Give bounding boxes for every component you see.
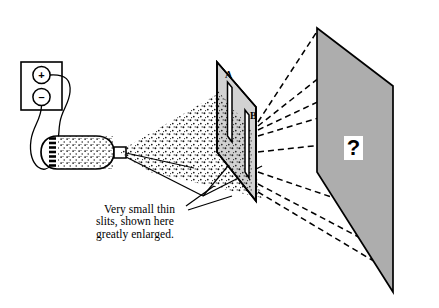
electron-gun [41, 136, 126, 169]
gun-interior-electrons [58, 136, 113, 169]
slit-a [228, 82, 233, 142]
caption-line-1: Very small thin [96, 203, 246, 215]
diagram-canvas [0, 0, 439, 308]
cathode-filament [49, 139, 56, 166]
slit-b-label: B [250, 111, 257, 121]
caption-line-3: greatly enlarged. [96, 228, 246, 240]
caption-line-2: slits, shown here [96, 215, 246, 227]
screen-surface [317, 28, 393, 292]
ray-1 [258, 30, 318, 122]
negative-terminal-label: – [35, 92, 48, 103]
physics-diagram: + – A B ? Very small thin slits, shown h… [0, 0, 439, 308]
slit-a-label: A [225, 70, 232, 80]
detection-screen [317, 28, 393, 292]
screen-question-mark: ? [344, 136, 363, 160]
slit-caption: Very small thin slits, shown here greatl… [96, 203, 246, 240]
ray-5 [258, 145, 322, 152]
positive-terminal-label: + [35, 70, 48, 81]
slit-b [245, 110, 249, 178]
